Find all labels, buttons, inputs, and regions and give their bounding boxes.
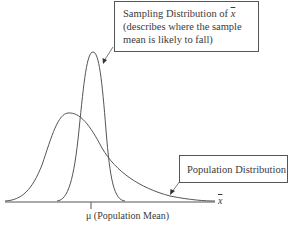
sampling-callout-line3: mean is likely to fall) xyxy=(123,33,258,46)
sampling-distribution-callout: Sampling Distribution of x (describes wh… xyxy=(114,1,259,52)
sampling-arrow-line xyxy=(104,47,113,61)
x-axis-label: x xyxy=(218,195,222,206)
population-distribution-callout: Population Distribution xyxy=(179,155,288,183)
population-mean-label: μ (Population Mean) xyxy=(86,210,169,221)
population-arrow-head xyxy=(170,189,175,195)
x-bar-symbol: x xyxy=(231,8,236,19)
population-callout-label: Population Distribution xyxy=(187,164,286,175)
sampling-callout-line1: Sampling Distribution of x xyxy=(123,7,258,20)
sampling-distribution-curve xyxy=(57,52,125,201)
sampling-arrow-head xyxy=(103,58,108,64)
sampling-callout-line2: (describes where the sample xyxy=(123,20,258,33)
